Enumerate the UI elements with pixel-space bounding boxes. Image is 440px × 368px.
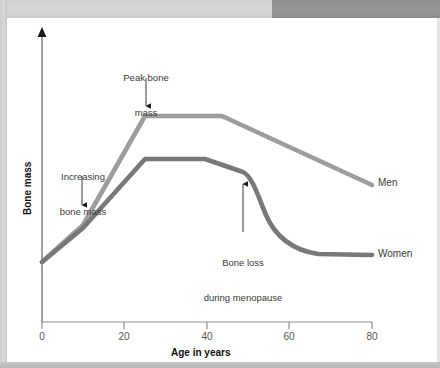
- annotation-peak-line1: Peak bone: [103, 72, 189, 84]
- x-axis-title: Age in years: [171, 347, 230, 358]
- annotation-increasing-bone-mass: Increasing bone mass: [42, 148, 124, 240]
- annotation-increasing-line1: Increasing: [42, 171, 124, 183]
- bone-mass-chart-screenshot: Peak bone mass Increasing bone mass Bone…: [0, 0, 440, 368]
- y-axis-title: Bone mass: [22, 162, 33, 215]
- annotation-peak-line2: mass: [103, 107, 189, 119]
- x-tick-label-20: 20: [116, 331, 132, 343]
- series-label-men: Men: [378, 177, 397, 189]
- annotation-boneloss-line1: Bone loss: [182, 257, 304, 269]
- x-tick-label-80: 80: [364, 331, 380, 343]
- annotation-peak-bone-mass: Peak bone mass: [103, 49, 189, 141]
- annotation-bone-loss-menopause: Bone loss during menopause: [182, 234, 304, 326]
- annotation-boneloss-line2: during menopause: [182, 292, 304, 304]
- x-tick-label-60: 60: [281, 331, 297, 343]
- series-label-women: Women: [378, 248, 412, 260]
- x-tick-label-0: 0: [34, 331, 50, 343]
- y-axis-arrowhead: [38, 27, 47, 37]
- x-tick-label-40: 40: [199, 331, 215, 343]
- annotation-increasing-line2: bone mass: [42, 206, 124, 218]
